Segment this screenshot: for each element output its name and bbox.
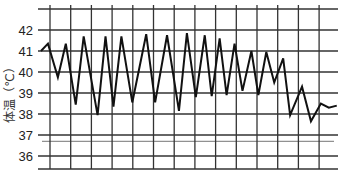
y-axis-label: 体温（℃） bbox=[3, 61, 17, 122]
y-tick-label: 36 bbox=[19, 149, 33, 164]
y-tick-label: 41 bbox=[19, 44, 33, 59]
y-tick-label: 40 bbox=[19, 65, 33, 80]
y-tick-labels: 36373839404142 bbox=[19, 23, 33, 164]
series-group bbox=[41, 33, 337, 121]
temperature-chart: 36373839404142 体温（℃） bbox=[0, 0, 339, 181]
y-tick-label: 37 bbox=[19, 128, 33, 143]
y-tick-label: 38 bbox=[19, 107, 33, 122]
series-line-0 bbox=[41, 33, 337, 121]
y-tick-label: 39 bbox=[19, 86, 33, 101]
horizontal-gridlines bbox=[38, 9, 338, 169]
y-tick-label: 42 bbox=[19, 23, 33, 38]
